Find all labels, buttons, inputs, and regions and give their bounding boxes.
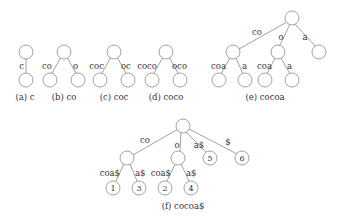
caption-d: (d) coco <box>149 92 184 102</box>
edge-label: coc <box>89 61 104 71</box>
leaf-number: 3 <box>136 184 141 193</box>
tree-node <box>271 45 285 59</box>
tree-node <box>258 73 272 87</box>
edge-label: a$ <box>194 140 204 150</box>
edge-label: oc <box>121 61 131 71</box>
tree-node <box>171 151 185 165</box>
edge-label: c <box>19 61 24 71</box>
subfigure-f: co o a$ $ coa$ a$ coa$ a$ 1 3 2 4 5 6 (f… <box>100 119 249 211</box>
tree-node <box>19 73 33 87</box>
tree-node <box>107 45 121 59</box>
caption-a: (a) c <box>15 92 34 102</box>
edge-label: coa$ <box>100 168 120 178</box>
tree-node <box>71 73 85 87</box>
caption-e: (e) cocoa <box>245 92 284 102</box>
caption-c: (c) coc <box>100 92 129 102</box>
subfigure-a: c (a) c <box>15 45 34 102</box>
edge-label: coco <box>137 61 157 71</box>
tree-node <box>120 151 134 165</box>
tree-node <box>159 45 173 59</box>
tree-node <box>226 45 240 59</box>
edge-label: coa$ <box>151 168 171 178</box>
tree-node-root <box>285 11 299 25</box>
edge-label: o <box>278 32 283 42</box>
tree-node <box>145 73 159 87</box>
tree-node <box>285 73 299 87</box>
tree-node <box>312 45 326 59</box>
tree-node <box>173 73 187 87</box>
tree-node-root <box>176 119 190 133</box>
subfigure-b: co o (b) co <box>42 45 85 102</box>
leaf-number: 4 <box>188 184 193 193</box>
tree-node <box>57 45 71 59</box>
edge-label: oco <box>172 61 187 71</box>
edge-label: o <box>174 140 179 150</box>
leaf-number: 2 <box>162 184 167 193</box>
tree-node <box>238 73 252 87</box>
leaf-number: 1 <box>110 184 115 193</box>
tree-node <box>93 73 107 87</box>
edge-label: co <box>140 135 150 145</box>
tree-node <box>19 45 33 59</box>
edge-label: o <box>73 61 78 71</box>
tree-node <box>121 73 135 87</box>
leaf-number: 5 <box>207 154 212 163</box>
edge-label: a <box>302 32 307 42</box>
leaf-number: 6 <box>239 154 244 163</box>
tree-node <box>212 73 226 87</box>
caption-f: (f) cocoa$ <box>162 201 205 211</box>
edge-label: a <box>242 61 247 71</box>
edge-label: co <box>42 61 52 71</box>
edge-label: a$ <box>186 168 196 178</box>
edge-label: coa <box>211 61 226 71</box>
edge-label: a <box>287 61 292 71</box>
edge-label: a$ <box>135 168 145 178</box>
suffix-tree-diagram: c (a) c co o (b) co coc oc (c) coc coco … <box>0 0 342 220</box>
tree-node <box>43 73 57 87</box>
edge-label: co <box>252 27 262 37</box>
edge-label: coa <box>257 61 272 71</box>
edge-label: $ <box>225 137 230 147</box>
subfigure-e: co o a coa a coa a (e) cocoa <box>211 11 326 102</box>
subfigure-c: coc oc (c) coc <box>89 45 135 102</box>
subfigure-d: coco oco (d) coco <box>137 45 187 102</box>
caption-b: (b) co <box>52 92 77 102</box>
